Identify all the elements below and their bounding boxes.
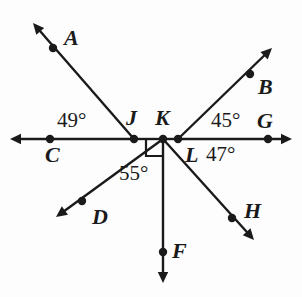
point-dot-H	[228, 214, 236, 222]
point-label-B: B	[258, 76, 273, 98]
point-label-C: C	[45, 144, 60, 166]
point-label-K: K	[155, 107, 170, 129]
point-dot-K	[159, 135, 167, 143]
point-dot-G	[264, 135, 272, 143]
point-label-A: A	[64, 27, 79, 49]
point-dot-D	[78, 197, 86, 205]
point-dot-A	[49, 44, 57, 52]
ray-K-to-D-arrowhead	[56, 206, 68, 217]
point-label-G: G	[257, 110, 273, 132]
point-dot-L	[174, 135, 182, 143]
point-label-D: D	[92, 206, 108, 228]
point-label-J: J	[126, 107, 137, 129]
point-label-L: L	[185, 144, 198, 166]
angle-label-angle-47: 47°	[206, 144, 235, 165]
angle-label-angle-49: 49°	[57, 110, 86, 131]
point-dot-B	[246, 70, 254, 78]
point-dot-F	[159, 248, 167, 256]
point-label-H: H	[244, 200, 261, 222]
point-dot-J	[130, 135, 138, 143]
geometry-diagram: ABCDFGHJKL49°45°47°55°	[0, 0, 302, 297]
angle-label-angle-55: 55°	[119, 163, 148, 184]
point-label-F: F	[172, 240, 187, 262]
angle-label-angle-45: 45°	[211, 110, 240, 131]
